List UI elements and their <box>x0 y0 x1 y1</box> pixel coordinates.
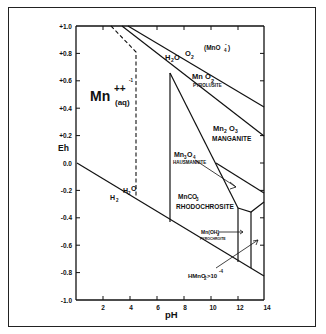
svg-text:+0.8: +0.8 <box>59 50 72 57</box>
svg-text:0.0: 0.0 <box>63 160 72 167</box>
svg-text:-4: -4 <box>219 269 223 274</box>
svg-text:-0.2: -0.2 <box>61 187 73 194</box>
svg-text:14: 14 <box>263 304 271 311</box>
svg-text:-0.8: -0.8 <box>61 269 73 276</box>
h2-label: H <box>110 194 115 201</box>
mn-aq-dashed-line <box>111 26 136 196</box>
pyrolusite-name: PYROLUSITE <box>193 83 222 88</box>
svg-text:): ) <box>228 44 230 52</box>
svg-text:3: 3 <box>235 128 238 134</box>
hausmannite-formula: Mn <box>174 151 184 158</box>
boundary-lines <box>77 26 264 276</box>
y-axis-label: Eh <box>58 143 69 153</box>
h2o-upper-label: H <box>165 53 170 62</box>
svg-text:4: 4 <box>129 304 133 311</box>
mn-aq-label: Mn <box>90 88 110 104</box>
svg-text:10: 10 <box>209 304 217 311</box>
pyrochroite-top-line <box>238 202 264 212</box>
manganite-name: MANGANITE <box>212 135 252 142</box>
svg-text:+0.2: +0.2 <box>59 132 72 139</box>
rhodochrosite-formula: MnCO <box>178 193 197 200</box>
svg-text:2: 2 <box>224 128 227 134</box>
svg-text:-1: -1 <box>129 78 133 83</box>
svg-text:-0.4: -0.4 <box>61 214 73 221</box>
annotation-arrows <box>195 160 258 268</box>
svg-text:O: O <box>131 185 137 192</box>
svg-text:+1.0: +1.0 <box>59 23 72 30</box>
svg-text:2: 2 <box>101 304 105 311</box>
svg-text:-1.0: -1.0 <box>61 297 73 304</box>
svg-text:4: 4 <box>224 48 227 53</box>
manganite-formula: Mn <box>213 124 224 133</box>
eh-ph-diagram: +1.0 +0.8 +0.6 +0.4 +0.2 0.0 -0.2 -0.4 -… <box>0 0 326 334</box>
y-tick-labels: +1.0 +0.8 +0.6 +0.4 +0.2 0.0 -0.2 -0.4 -… <box>59 23 72 304</box>
svg-text:+0.4: +0.4 <box>59 105 72 112</box>
svg-text:12: 12 <box>236 304 244 311</box>
x-axis-label: pH <box>165 309 178 320</box>
svg-text:-: - <box>225 41 227 47</box>
svg-text:+0.6: +0.6 <box>59 77 72 84</box>
svg-text:-0.6: -0.6 <box>61 242 73 249</box>
svg-text:3: 3 <box>196 197 199 202</box>
x-tick-labels: 2 4 6 8 10 12 14 <box>101 304 271 311</box>
svg-text:++: ++ <box>114 83 126 94</box>
permanganate-label: (MnO <box>204 44 221 52</box>
svg-text:2: 2 <box>191 54 194 60</box>
svg-text:6: 6 <box>156 304 160 311</box>
region-labels: Mn ++ (aq) -1 (MnO 4 - ) H 2 O O 2 Mn O … <box>90 41 252 281</box>
hausmannite-name: HAUSMANNITE <box>173 160 206 165</box>
svg-text:8: 8 <box>183 304 187 311</box>
pyrolusite-formula: Mn O <box>192 72 211 81</box>
svg-text:(aq): (aq) <box>115 98 130 107</box>
svg-text:>10: >10 <box>207 273 218 279</box>
rhodochrosite-name: RHODOCHROSITE <box>176 203 234 210</box>
h2o-o2-line <box>128 26 264 107</box>
pyrochroite-name: PYROCHROITE <box>200 237 226 241</box>
svg-text:O: O <box>174 53 180 62</box>
svg-text:2: 2 <box>116 198 119 203</box>
